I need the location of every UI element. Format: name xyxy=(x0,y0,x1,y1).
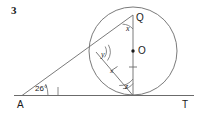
point-label-o: O xyxy=(138,46,146,56)
point-label-a: A xyxy=(17,100,24,110)
arc-angle-y-outer xyxy=(108,45,111,61)
angle-label-x: x xyxy=(126,25,130,33)
problem-number: 3 xyxy=(11,5,17,16)
angle-label-26deg: 26° xyxy=(35,85,47,93)
point-label-t: T xyxy=(182,100,188,110)
angle-label-z: z xyxy=(125,83,128,91)
center-dot-O xyxy=(131,49,134,52)
angle-label-y: y xyxy=(101,51,105,59)
point-label-q: Q xyxy=(136,13,144,23)
geometry-figure: 3 A T Q O 26° x y z x xyxy=(0,0,201,117)
side-label-x: x xyxy=(110,68,113,75)
